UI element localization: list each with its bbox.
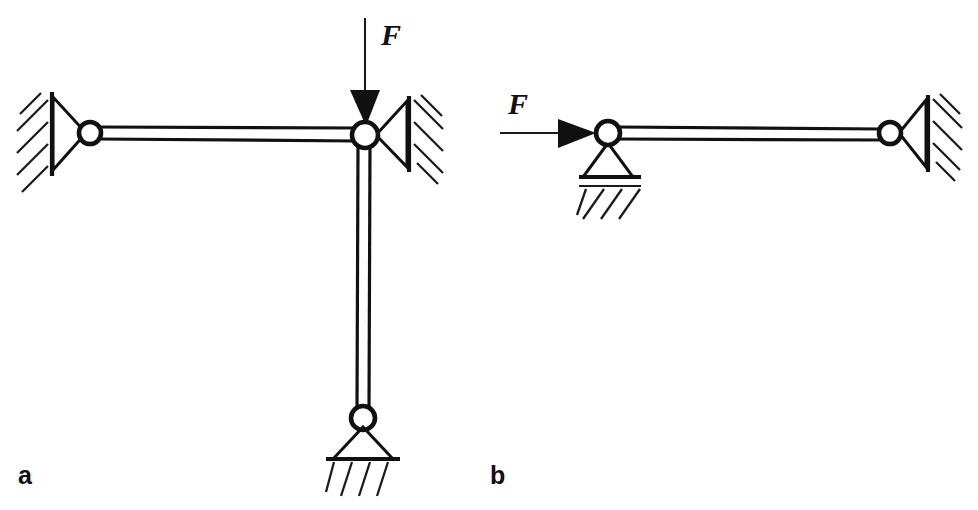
hatching	[414, 95, 443, 184]
panel-a-label: a	[18, 461, 33, 489]
hatching	[326, 462, 388, 496]
hatching	[933, 94, 962, 181]
panel-a-horizontal-link	[97, 127, 358, 141]
support-triangle	[376, 101, 407, 167]
panel-b-left-ground-pin-support	[577, 143, 641, 219]
panel-a-center-joint	[352, 122, 378, 148]
ground-line	[579, 177, 641, 186]
panel-b-right-joint	[879, 122, 901, 144]
panel-b-force-arrow	[500, 119, 596, 148]
figure-root: F a	[0, 0, 978, 510]
panel-a-left-joint	[79, 122, 101, 144]
panel-a-right-wall-pin-support	[376, 95, 443, 184]
panel-a-force-arrow	[350, 18, 380, 126]
panel-b-force-label: F	[507, 87, 528, 120]
panel-a-bottom-ground-pin-support	[326, 427, 400, 496]
panel-b-right-wall-pin-support	[899, 94, 962, 181]
support-triangle	[583, 143, 633, 177]
panel-a: F a	[17, 18, 443, 496]
hatching	[577, 189, 640, 219]
panel-b-horizontal-link	[618, 127, 882, 140]
hatching	[17, 93, 48, 192]
panel-a-force-label: F	[380, 18, 401, 51]
panel-b-label: b	[490, 461, 505, 489]
engineering-diagram-svg: F a	[0, 0, 978, 510]
panel-b-left-joint	[596, 121, 620, 145]
panel-a-left-wall-pin-support	[17, 92, 86, 192]
panel-a-vertical-link	[357, 146, 370, 409]
panel-b: F	[490, 87, 962, 489]
